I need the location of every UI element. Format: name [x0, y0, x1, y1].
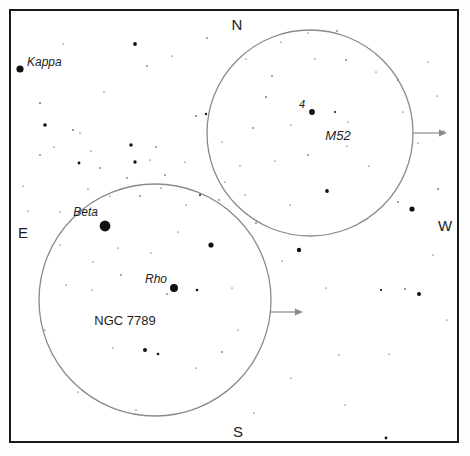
star-point — [59, 211, 60, 212]
star-point — [253, 412, 254, 413]
star-point — [185, 204, 186, 205]
star-point — [245, 58, 246, 59]
star-point — [402, 111, 403, 112]
star-point — [91, 289, 92, 290]
star-point — [255, 222, 256, 223]
star-point — [290, 124, 291, 125]
star-point — [334, 111, 336, 113]
star-point — [231, 287, 232, 288]
chart-frame — [10, 10, 458, 442]
star-point — [77, 391, 78, 392]
star-point — [43, 123, 47, 127]
star-point — [265, 96, 267, 98]
star-point — [27, 210, 28, 211]
star-point — [150, 252, 151, 253]
star-point — [244, 194, 245, 195]
star-point — [99, 167, 100, 168]
star-point — [90, 150, 91, 151]
star-point — [221, 141, 222, 142]
star-point — [59, 244, 60, 245]
star-point — [218, 199, 219, 200]
star-point — [280, 41, 281, 42]
star-point — [72, 129, 74, 131]
star-point — [157, 353, 160, 356]
star-point — [338, 354, 339, 355]
star-point — [325, 287, 326, 288]
star-point — [184, 161, 185, 162]
star-point — [427, 61, 428, 62]
star-point — [239, 165, 240, 166]
north-label: N — [232, 16, 243, 33]
star-point — [281, 260, 282, 261]
star-point — [146, 65, 147, 66]
cluster-label-ngc7789: NGC 7789 — [94, 313, 155, 328]
cluster-label-m52: M52 — [325, 128, 351, 143]
star-point — [385, 437, 388, 440]
star-point — [290, 377, 291, 378]
star-point — [92, 261, 93, 262]
star-point — [166, 293, 167, 294]
star-point — [380, 289, 382, 291]
star-point — [149, 159, 150, 160]
star-label-kappa: Kappa — [27, 55, 62, 69]
star-point — [135, 409, 136, 410]
star-beta — [100, 221, 111, 232]
star-point — [160, 187, 161, 188]
star-point — [62, 43, 63, 44]
star-point — [205, 113, 207, 115]
star-point — [112, 347, 113, 348]
star-point — [336, 30, 337, 31]
star-point — [271, 75, 272, 76]
star-star-4 — [309, 109, 315, 115]
star-point — [133, 42, 137, 46]
star-point — [129, 143, 132, 146]
star-rho — [170, 284, 178, 292]
star-point — [314, 58, 315, 59]
star-point — [432, 254, 433, 255]
star-point — [347, 121, 348, 122]
star-point — [155, 146, 156, 147]
star-point — [237, 329, 238, 330]
star-point — [346, 145, 347, 146]
star-point — [196, 289, 199, 292]
star-point — [274, 160, 275, 161]
star-point — [437, 188, 439, 190]
star-point — [39, 102, 41, 104]
star-point — [164, 174, 165, 175]
star-label-beta: Beta — [73, 205, 98, 219]
star-point — [139, 195, 140, 196]
star-point — [65, 284, 66, 285]
south-label: S — [233, 423, 243, 440]
star-point — [388, 353, 389, 354]
star-point — [79, 132, 80, 133]
star-point — [120, 274, 121, 275]
star-point — [206, 37, 207, 38]
star-point — [87, 188, 88, 189]
star-point — [443, 130, 444, 131]
star-point — [397, 201, 398, 202]
star-label-rho: Rho — [145, 272, 167, 286]
star-point — [103, 91, 104, 92]
star-point — [297, 248, 301, 252]
star-point — [195, 115, 197, 117]
star-point — [78, 162, 81, 165]
star-point — [307, 154, 308, 155]
star-point — [375, 71, 376, 72]
star-point — [221, 351, 222, 352]
star-point — [199, 194, 201, 196]
star-point — [325, 189, 329, 193]
star-point — [133, 160, 136, 163]
star-point — [208, 242, 213, 247]
star-point — [126, 177, 127, 178]
star-point — [446, 319, 447, 320]
star-point — [417, 292, 421, 296]
star-point — [195, 367, 196, 368]
star-point — [171, 55, 172, 56]
star-point — [417, 142, 418, 143]
star-point — [307, 32, 308, 33]
star-point — [143, 348, 147, 352]
star-point — [224, 181, 225, 182]
star-point — [39, 154, 40, 155]
star-point — [345, 59, 346, 60]
east-label: E — [18, 224, 28, 241]
